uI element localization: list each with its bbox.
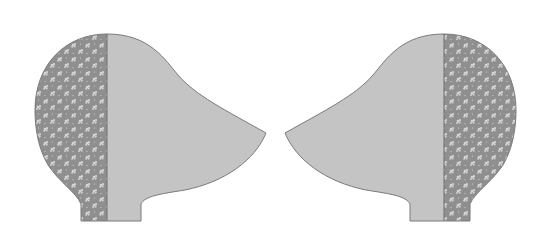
right-plain-panel <box>279 30 444 225</box>
pattern-diagram <box>0 0 551 237</box>
left-floral-strip <box>30 30 107 225</box>
right-pattern-piece <box>279 30 521 225</box>
diagram-canvas <box>0 0 551 237</box>
left-plain-panel <box>107 30 272 225</box>
right-floral-strip <box>444 30 521 225</box>
left-pattern-piece <box>30 30 272 225</box>
